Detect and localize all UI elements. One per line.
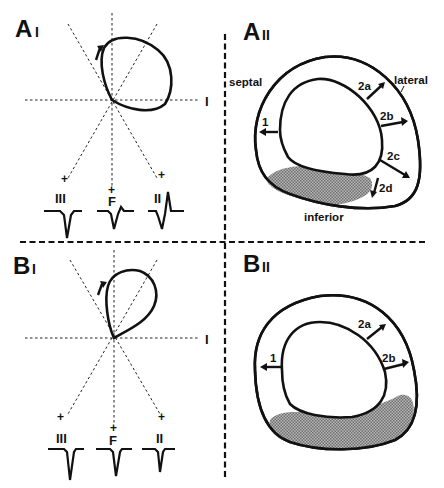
vector-2c-label: 2c [387, 150, 400, 162]
panel-b2-label: B [243, 250, 260, 277]
vector-2d-label: 2d [379, 182, 392, 194]
inferior-label: inferior [304, 211, 344, 223]
panel-a1-label: A [15, 15, 32, 42]
ecg-lead-iii [44, 211, 82, 238]
vector-2b-label: 2b [380, 110, 393, 122]
ecg-lead-f [96, 449, 132, 476]
lead-i-label: I [205, 94, 209, 109]
lead-ii-label: II [154, 191, 161, 206]
lead-ii-plus: + [158, 410, 165, 424]
ecg-lead-ii [142, 449, 175, 472]
ecg-vectorcardiogram-figure: A I I + + + III F II A II [0, 0, 444, 488]
ecg-lead-iii [48, 449, 84, 480]
panel-a1: A I I + + + III F II [15, 13, 209, 238]
rotation-arrow-icon [96, 48, 100, 60]
vector-2b-label: 2b [382, 352, 395, 364]
panel-b1-label: B [13, 252, 30, 279]
panel-a2-sublabel: II [262, 27, 270, 43]
septal-label: septal [229, 76, 262, 88]
lead-ii-label: II [156, 431, 163, 446]
panel-a1-sublabel: I [35, 24, 39, 40]
panel-b2: B II 1 2a 2b [243, 250, 417, 449]
vector-2a-label: 2a [358, 80, 371, 92]
vector-1-label: 1 [270, 352, 277, 364]
lead-iii-label: III [55, 191, 66, 206]
vector-1-label: 1 [262, 116, 269, 128]
rotation-arrow-icon [98, 284, 102, 295]
lead-iii-plus: + [61, 172, 68, 186]
lateral-leader-line [401, 86, 404, 92]
panel-a2: A II 1 2a 2b 2c 2d septal lateral inferi… [229, 18, 428, 223]
lead-f-label: F [109, 433, 117, 448]
lateral-label: lateral [394, 74, 428, 86]
vector-2a-label: 2a [358, 318, 371, 330]
lead-iii-label: III [56, 431, 67, 446]
panel-b1: B I I + + + III F II [13, 250, 209, 480]
lead-i-label: I [205, 332, 209, 347]
lead-ii-plus: + [158, 168, 165, 182]
lead-iii-plus: + [57, 410, 64, 424]
panel-a2-label: A [243, 18, 260, 45]
ecg-lead-f [97, 207, 134, 229]
lead-f-label: F [108, 194, 116, 209]
panel-b1-sublabel: I [32, 261, 36, 277]
panel-b2-sublabel: II [262, 259, 270, 275]
